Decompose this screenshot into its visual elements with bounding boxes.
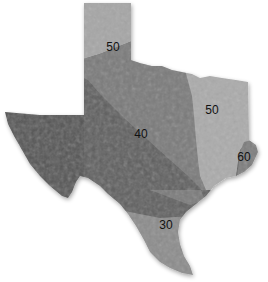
zone-label-30: 30	[159, 218, 173, 232]
map-canvas: 50 50 40 60 30	[0, 0, 268, 282]
zone-label-50-east: 50	[205, 103, 219, 117]
texas-contour-map: 50 50 40 60 30	[0, 0, 268, 282]
zone-label-60: 60	[237, 150, 251, 164]
zone-trans-pecos	[0, 100, 84, 200]
texas-state-shape	[0, 0, 268, 282]
zone-label-50-panhandle: 50	[106, 40, 120, 54]
zone-label-40: 40	[134, 127, 148, 141]
